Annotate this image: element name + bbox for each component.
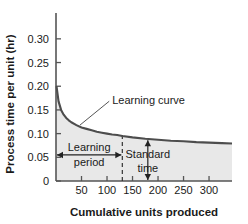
chart-canvas: 00.050.100.150.200.250.30501001502002503… bbox=[0, 0, 248, 224]
learning-period-label-line2: period bbox=[74, 156, 105, 168]
y-tick-label-3: 0.15 bbox=[28, 104, 49, 116]
x-tick-label-2: 150 bbox=[123, 184, 141, 196]
y-tick-label-6: 0.30 bbox=[28, 33, 49, 45]
learning-period-label-line1: Learning bbox=[68, 141, 111, 153]
learning-curve-label: Learning curve bbox=[112, 94, 185, 106]
learning-curve-leader-line bbox=[80, 101, 109, 125]
y-axis-title: Process time per unit (hr) bbox=[4, 34, 16, 173]
x-tick-label-4: 250 bbox=[174, 184, 192, 196]
standard-time-label-line2: time bbox=[137, 162, 158, 174]
learning-curve-chart: 00.050.100.150.200.250.30501001502002503… bbox=[0, 0, 248, 224]
x-tick-label-0: 50 bbox=[75, 184, 87, 196]
standard-time-label-line1: Standard bbox=[125, 148, 170, 160]
y-tick-label-4: 0.20 bbox=[28, 80, 49, 92]
x-tick-label-1: 100 bbox=[98, 184, 116, 196]
x-axis-title: Cumulative units produced bbox=[70, 206, 218, 218]
y-tick-label-5: 0.25 bbox=[28, 57, 49, 69]
x-tick-label-3: 200 bbox=[149, 184, 167, 196]
y-tick-label-2: 0.10 bbox=[28, 128, 49, 140]
y-tick-label-1: 0.05 bbox=[28, 151, 49, 163]
y-tick-label-0: 0 bbox=[43, 175, 49, 187]
x-tick-label-5: 300 bbox=[200, 184, 218, 196]
